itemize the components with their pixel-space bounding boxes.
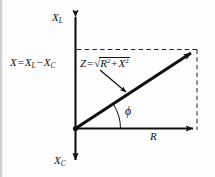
axis-label-xc-var: X [54,154,61,166]
leader-line-z-label [100,70,126,92]
axis-label-r: R [150,131,157,142]
radicand-term1: R [100,57,107,69]
axis-label-xl-var: X [52,11,59,23]
equation-reactance-term2-sub: C [50,62,55,70]
equation-reactance: X = XL − XC [10,57,55,70]
angle-label-phi-symbol: ϕ [125,104,131,118]
equation-reactance-term1: X [25,56,32,68]
axis-label-r-var: R [150,130,157,142]
axis-label-xl: XL [52,12,63,25]
axis-label-xc: XC [54,155,66,168]
radical-group: √R2 + X2 [94,57,129,69]
equation-reactance-lhs: X [10,56,17,68]
angle-label-phi: ϕ [125,105,131,117]
impedance-phasor-diagram: XL XC R X = XL − XC Z = √R2 + X2 ϕ [0,0,215,177]
angle-arc-phi [114,105,121,129]
axis-label-xl-sub: L [59,17,63,25]
axis-label-xc-sub: C [61,160,66,168]
radicand: R2 + X2 [99,57,129,69]
page-edge-shadow [0,0,2,177]
equation-impedance: Z = √R2 + X2 [80,57,130,69]
diagram-canvas [0,0,215,177]
radicand-term2-exponent: 2 [125,57,128,64]
